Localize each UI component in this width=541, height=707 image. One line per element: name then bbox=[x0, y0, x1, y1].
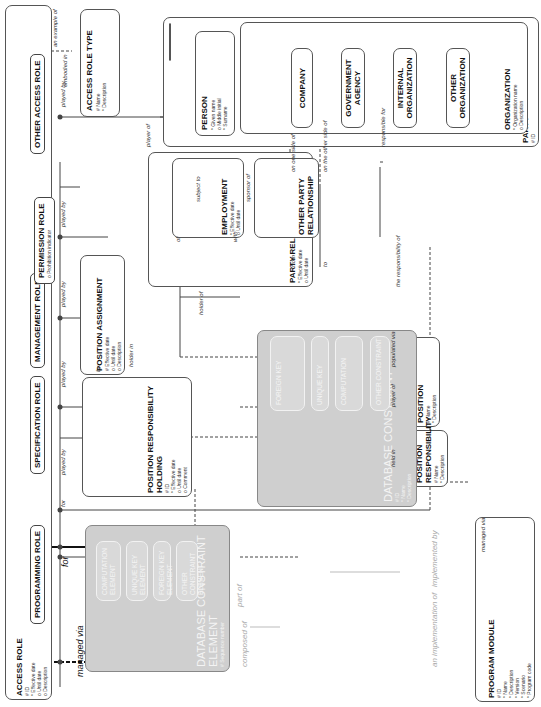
label-an-implementation-of: an implementation of bbox=[430, 593, 439, 667]
person-entity[interactable]: PERSON * Given name o Middle initial * S… bbox=[195, 31, 235, 136]
label-with: with bbox=[232, 231, 239, 242]
other-organization-entity[interactable]: OTHER ORGANIZATION bbox=[446, 48, 470, 128]
label-part-of: part of bbox=[235, 584, 244, 607]
label-the-responsibility-of: the responsibility of bbox=[395, 236, 402, 287]
label-sponsor-of: sponsor of bbox=[245, 174, 252, 202]
database-constraint-element-entity[interactable]: DATABASE CONSTRAINT ELEMENT # Sequence n… bbox=[85, 525, 230, 672]
label-embodied-in: embodied in bbox=[62, 54, 69, 87]
foreign-key-element-entity[interactable]: FOREIGN KEY ELEMENT bbox=[153, 541, 171, 601]
label-holder-of: holder of bbox=[198, 292, 205, 315]
computation-entity[interactable]: COMPUTATION bbox=[335, 336, 363, 411]
specification-role[interactable]: SPECIFICATION ROLE bbox=[30, 376, 45, 474]
permission-role[interactable]: PERMISSION ROLE o Prohibition indicator bbox=[34, 197, 55, 284]
foreign-key-entity[interactable]: FOREIGN KEY bbox=[270, 336, 305, 411]
internal-organization-entity[interactable]: INTERNAL ORGANIZATION bbox=[393, 48, 417, 128]
label-to: to bbox=[322, 262, 329, 267]
label-subject-to: subject to bbox=[195, 176, 202, 202]
label-for-programming: for bbox=[60, 556, 70, 567]
other-access-role[interactable]: OTHER ACCESS ROLE bbox=[30, 54, 45, 154]
label-an-example-of: an example of bbox=[52, 9, 59, 47]
access-role-title: ACCESS ROLE bbox=[15, 638, 24, 696]
label-played-by-perm: played by bbox=[60, 281, 67, 307]
company-entity[interactable]: COMPANY bbox=[291, 48, 313, 128]
other-party-relationship-entity[interactable]: OTHER PARTY RELATIONSHIP bbox=[254, 158, 319, 238]
label-managed-via: managed via bbox=[75, 625, 85, 677]
label-played-by-perm2: played by bbox=[60, 201, 67, 227]
access-role-type-entity[interactable]: ACCESS ROLE TYPE # Name * Description bbox=[80, 9, 120, 117]
position-assignment-entity[interactable]: POSITION ASSIGNMENT # Effective date o U… bbox=[80, 255, 125, 375]
er-diagram: ACCESS ROLE # ID * Effective date o Unti… bbox=[0, 0, 541, 707]
label-from: from bbox=[290, 255, 297, 267]
other-constraint-entity[interactable]: OTHER CONSTRAINT bbox=[370, 336, 390, 411]
unique-key-element-entity[interactable]: UNIQUE KEY ELEMENT bbox=[126, 541, 148, 601]
label-managed-via-program: managed via bbox=[480, 518, 487, 552]
label-played-by-spec: played by bbox=[60, 449, 67, 475]
label-player-of-position: player of bbox=[390, 384, 397, 407]
label-on-one-side-of: on one side of bbox=[290, 134, 297, 172]
access-role-attrs: # ID * Effective date o Until date o Des… bbox=[24, 638, 48, 696]
government-agency-entity[interactable]: GOVERNMENT AGENCY bbox=[341, 48, 365, 128]
label-on-the-other-side-of: on the other side of bbox=[322, 121, 329, 172]
label-composed-of: composed of bbox=[240, 621, 249, 667]
other-constraint-element-entity[interactable]: OTHER CONSTRAINT ELEMENT bbox=[176, 541, 198, 601]
label-populated-via: populated via bbox=[390, 331, 397, 367]
label-player-of-party: player of bbox=[145, 124, 152, 147]
label-implemented-by: implemented by bbox=[430, 531, 439, 587]
label-of: of bbox=[175, 237, 182, 242]
label-by: by bbox=[95, 366, 102, 372]
label-played-by-mgmt: played by bbox=[60, 361, 67, 387]
label-held-in: held in bbox=[390, 449, 397, 467]
access-role-entity[interactable]: ACCESS ROLE # ID * Effective date o Unti… bbox=[5, 5, 52, 700]
unique-key-entity[interactable]: UNIQUE KEY bbox=[311, 336, 329, 411]
employment-entity[interactable]: EMPLOYMENT * Effective date o Until date bbox=[172, 158, 244, 238]
party-relationship-entity[interactable]: PARTY RELATIONSHIP * Effective date o Un… bbox=[148, 152, 313, 287]
label-holder-in: holder in bbox=[128, 344, 135, 367]
position-responsibility-holding-entity[interactable]: POSITION RESPONSIBILITY HOLDING # ID * E… bbox=[82, 377, 192, 497]
label-for-specification: for bbox=[60, 500, 67, 507]
management-role[interactable]: MANAGEMENT ROLE bbox=[30, 273, 45, 368]
label-responsible-for: responsible for bbox=[380, 108, 387, 147]
programming-role[interactable]: PROGRAMMING ROLE bbox=[30, 525, 45, 624]
computation-element-entity[interactable]: COMPUTATION ELEMENT bbox=[96, 541, 121, 601]
